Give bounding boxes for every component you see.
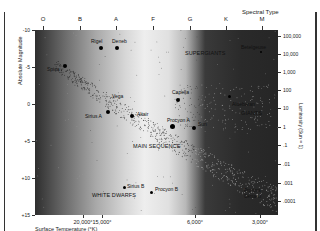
luminosity-tick [278, 127, 281, 128]
star-sirius-b [123, 186, 126, 189]
surface-temperature-label: Surface Temperature (°K) [35, 226, 97, 231]
star-sun [192, 126, 196, 130]
label-procyon-b: Procyon B [155, 186, 178, 192]
luminosity-tick-label: 10 [283, 105, 289, 111]
label-main-sequence: MAIN SEQUENCE [133, 143, 180, 149]
luminosity-label: Luminosity (Sun = 1) [298, 103, 304, 149]
temperature-tick-label: 20,000° [73, 219, 92, 225]
label-procyon-a: Procyon A [167, 117, 190, 123]
spectral-tick-label: B [78, 16, 82, 22]
luminosity-tick-label: .0001 [283, 198, 296, 204]
luminosity-tick [278, 145, 281, 146]
spectral-tick-label: F [151, 16, 155, 22]
spectral-tick-label: M [260, 16, 265, 22]
luminosity-tick [278, 183, 281, 184]
star-procyon-b [150, 191, 153, 194]
label-betelgeuse: Betelgeuse [241, 44, 266, 50]
luminosity-tick [278, 201, 281, 202]
luminosity-tick-label: .01 [283, 161, 290, 167]
frame-border-left [4, 12, 5, 231]
luminosity-tick [278, 164, 281, 165]
label-aldebaran: Aldebaran [232, 101, 255, 107]
star-capella [176, 98, 180, 102]
spectral-tick-label: G [188, 16, 193, 22]
magnitude-tick-label: -5 [8, 64, 30, 70]
star-deneb [115, 46, 119, 50]
label-sun: Sun [198, 121, 207, 127]
star-betelgeuse [260, 51, 262, 53]
star-aldebaran [228, 95, 231, 98]
luminosity-tick [278, 54, 281, 55]
spectral-type-title: Spectral Type [242, 9, 279, 15]
spectral-tick-label: O [41, 16, 46, 22]
star-spica [63, 64, 67, 68]
label-white-dwarfs: WHITE DWARFS [92, 192, 136, 198]
label-sirius-b: Sirius B [127, 183, 144, 189]
luminosity-tick-label: 10,000 [283, 51, 298, 57]
temperature-tick-label: 6,000° [187, 219, 203, 225]
label-rigel: Rigel [91, 38, 102, 44]
star-procyon-a [170, 124, 175, 129]
star-rigel [99, 46, 103, 50]
spectral-tick-label: A [114, 16, 118, 22]
magnitude-tick [32, 215, 35, 216]
luminosity-tick-label: 1,000 [283, 69, 296, 75]
label-altair: Altair [137, 111, 148, 117]
magnitude-tick-label: 0 [8, 101, 30, 107]
label-proxima-centauri: Proxima Centauri [244, 188, 268, 200]
label-spica: Spica [47, 66, 60, 72]
temperature-tick-label: 3,000° [252, 219, 268, 225]
absolute-magnitude-label: Absolute Magnitude [17, 25, 23, 85]
luminosity-tick-label: 100 [283, 87, 291, 93]
star-sirius-a [106, 110, 110, 114]
magnitude-tick-label: +10 [8, 175, 30, 181]
magnitude-tick-label: +5 [8, 138, 30, 144]
temperature-tick-label: 15,000° [92, 219, 111, 225]
luminosity-tick-label: 100,000 [283, 33, 301, 39]
label-sirius-a: Sirius A [85, 113, 102, 119]
luminosity-tick [278, 72, 281, 73]
label-deneb: Deneb [112, 38, 127, 44]
luminosity-tick-label: .1 [283, 142, 287, 148]
spectral-tick-label: K [224, 16, 228, 22]
magnitude-tick-label: +15 [8, 212, 30, 218]
label-capella: Capella [172, 89, 189, 95]
luminosity-tick-label: .001 [283, 180, 293, 186]
frame-border-right [315, 12, 317, 231]
label-giants: GIANTS [241, 110, 262, 116]
label-supergiants: SUPERGIANTS [185, 50, 226, 56]
magnitude-tick-label: -10 [8, 27, 30, 33]
label-proxima-text: Proxima Centauri [244, 188, 268, 200]
luminosity-tick [278, 90, 281, 91]
label-vega: Vega [112, 93, 123, 99]
star-altair [130, 114, 134, 118]
luminosity-tick [278, 36, 281, 37]
luminosity-tick [278, 108, 281, 109]
luminosity-tick-label: 1 [283, 124, 286, 130]
